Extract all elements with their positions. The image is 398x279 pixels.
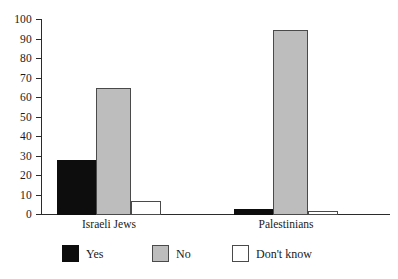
chart-legend: Yes No Don't know (0, 245, 398, 275)
legend-item-no: No (152, 245, 191, 262)
legend-swatch-icon-no (152, 245, 169, 262)
legend-item-dont-know: Don't know (232, 245, 312, 262)
bar-chart: 100 90 80 70 60 50 40 30 20 10 0 (0, 0, 398, 279)
legend-swatch-icon-yes (62, 245, 79, 262)
legend-label-no: No (176, 248, 191, 260)
bar-palestinians-dont-know (308, 211, 338, 215)
bar-israeli-jews-no (96, 88, 131, 215)
bar-israeli-jews-yes (57, 160, 96, 215)
legend-label-dont-know: Don't know (256, 248, 312, 260)
plot-area: 100 90 80 70 60 50 40 30 20 10 0 (0, 0, 398, 236)
legend-item-yes: Yes (62, 245, 103, 262)
bars-layer (0, 0, 398, 215)
group-label-palestinians: Palestinians (231, 219, 341, 231)
bar-palestinians-yes (234, 209, 273, 215)
bar-israeli-jews-dont-know (131, 201, 161, 215)
bar-palestinians-no (273, 30, 308, 215)
legend-swatch-icon-dont-know (232, 245, 249, 262)
legend-label-yes: Yes (86, 248, 103, 260)
group-label-israeli-jews: Israeli Jews (54, 219, 164, 231)
